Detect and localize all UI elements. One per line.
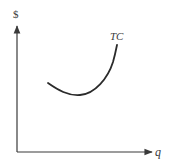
tc-chart [0,0,173,166]
x-axis-label: q [155,146,161,158]
y-axis-label: $ [13,9,19,20]
tc-curve-label: TC [110,31,123,42]
tc-curve [48,45,117,95]
